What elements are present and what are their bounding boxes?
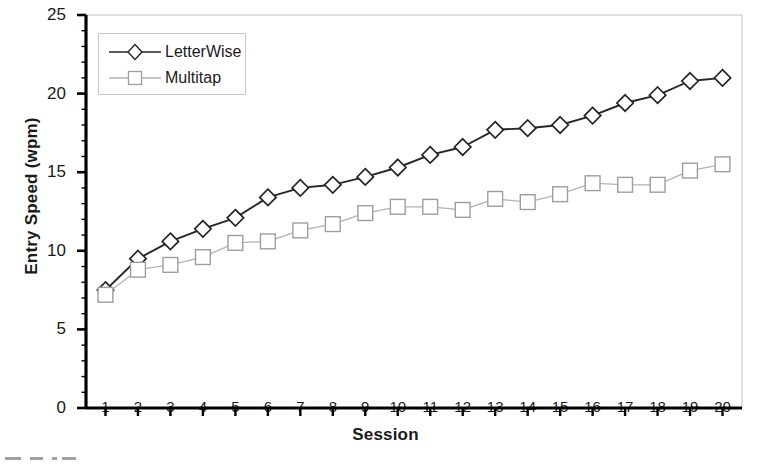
data-point-marker [618,177,633,192]
data-point-marker [131,262,146,277]
series-letterwise [97,70,730,299]
data-point-marker [195,221,211,237]
data-point-marker [455,139,471,155]
data-point-marker [325,217,340,232]
legend-label-letterwise: LetterWise [165,42,241,62]
data-point-marker [683,163,698,178]
data-point-marker [325,177,341,193]
data-point-marker [293,223,308,238]
data-point-marker [98,287,113,302]
data-point-marker [162,233,178,249]
data-point-marker [357,169,373,185]
data-point-marker [455,203,470,218]
legend-entry-letterwise: LetterWise [99,40,247,64]
diamond-open-icon [107,40,163,64]
data-point-marker [227,210,243,226]
data-point-marker [487,122,503,138]
square-open-icon [107,66,163,90]
legend-entry-multitap: Multitap [99,66,247,90]
data-point-marker [390,159,406,175]
data-point-marker [552,117,568,133]
data-point-marker [520,120,536,136]
data-point-marker [358,206,373,221]
chart-legend: LetterWise Multitap [98,33,246,95]
data-point-marker [261,234,276,249]
data-point-marker [488,192,503,207]
data-point-marker [292,180,308,196]
data-point-marker [520,195,535,210]
data-point-marker [714,70,730,86]
data-point-marker [553,187,568,202]
data-point-marker [228,236,243,251]
legend-label-multitap: Multitap [165,68,221,88]
cropped-caption-artifact [4,452,100,461]
data-point-marker [649,87,665,103]
data-point-marker [650,177,665,192]
data-point-marker [196,250,211,265]
data-series-layer [97,70,730,302]
data-point-marker [423,199,438,214]
data-point-marker [682,73,698,89]
data-point-marker [390,199,405,214]
data-point-marker [585,176,600,191]
data-point-marker [617,95,633,111]
data-point-marker [422,147,438,163]
data-point-marker [715,157,730,172]
data-point-marker [584,107,600,123]
data-point-marker [163,258,178,273]
data-point-marker [260,189,276,205]
series-multitap [98,157,730,302]
figure-entry-speed-chart: Entry Speed (wpm) Session 0510152025 123… [0,0,771,465]
